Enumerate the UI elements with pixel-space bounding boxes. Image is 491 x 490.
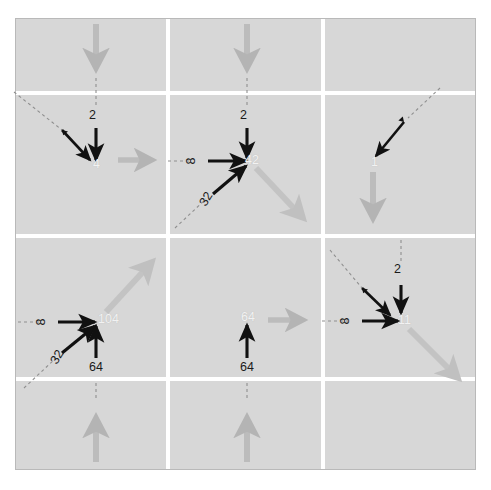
- label-eight-r2c2: 8: [184, 158, 198, 165]
- center-value-r3c3: 11: [398, 313, 411, 327]
- center-value-r2c3: 1: [371, 155, 378, 169]
- label-sixtyfour-r3c1: 64: [89, 360, 103, 374]
- grid-frame: [15, 18, 476, 470]
- label-eight-r3c3: 8: [338, 318, 352, 325]
- center-value-r2c2: 42: [245, 153, 259, 167]
- gridline-vertical-1: [166, 19, 170, 469]
- center-value-r3c1: 104: [98, 312, 119, 326]
- gridline-horizontal-3: [16, 377, 475, 381]
- gridline-horizontal-2: [16, 234, 475, 238]
- label-two-r2c1: 2: [89, 108, 96, 122]
- label-two-r2c2: 2: [240, 108, 247, 122]
- gridline-vertical-2: [321, 19, 325, 469]
- gridline-horizontal-1: [16, 91, 475, 95]
- diagram-canvas: 2 2 8 32 8 32 64 64 2 8 4 42 1 104 64 11: [0, 0, 491, 490]
- label-two-r3c3: 2: [394, 262, 401, 276]
- center-value-r2c1: 4: [93, 157, 100, 171]
- label-sixtyfour-r3c2: 64: [240, 360, 254, 374]
- center-value-r3c2: 64: [241, 310, 255, 324]
- label-eight-r3c1: 8: [34, 319, 48, 326]
